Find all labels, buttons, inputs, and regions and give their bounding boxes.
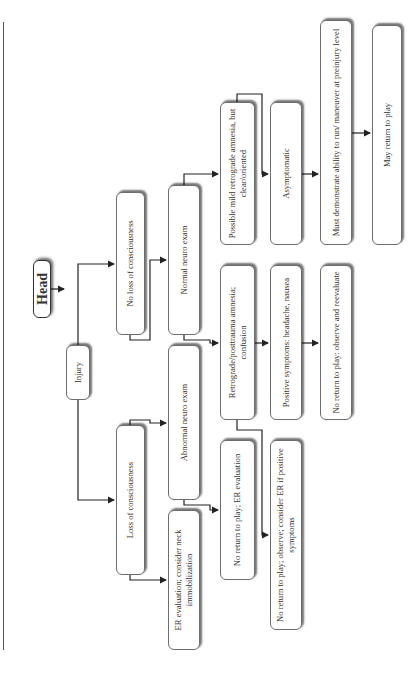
abnormal-neuro-exam-node: Abnormal neuro exam (168, 345, 200, 500)
no-return-reevaluate-label: No return to play: observe and reevaluat… (331, 271, 342, 413)
retrograde-amnesia-label: Retrograde/posttrauma amnesia; confusion (227, 270, 249, 415)
er-evaluation-node: ER evaluation; consider neck immobilizat… (168, 510, 200, 650)
flowchart-canvas: Head Injury No loss of consciousness Los… (0, 0, 412, 674)
abnormal-neuro-exam-label: Abnormal neuro exam (179, 384, 190, 461)
retrograde-amnesia-node: Retrograde/posttrauma amnesia; confusion (220, 265, 255, 420)
asymptomatic-node: Asymptomatic (270, 102, 302, 245)
er-evaluation-label: ER evaluation; consider neck immobilizat… (173, 515, 195, 645)
normal-neuro-exam-node: Normal neuro exam (168, 185, 200, 335)
no-loss-of-consciousness-label: No loss of consciousness (125, 220, 136, 306)
must-demonstrate-label: Must demonstrate ability to run/ maneuve… (331, 29, 342, 237)
head-title-label: Head (37, 273, 48, 305)
head-title-node: Head (33, 260, 51, 318)
must-demonstrate-node: Must demonstrate ability to run/ maneuve… (320, 20, 352, 245)
possible-mild-amnesia-label: Possible mild retrograde amnesia, but cl… (227, 107, 249, 240)
injury-node: Injury (66, 345, 90, 400)
no-loss-of-consciousness-node: No loss of consciousness (116, 192, 145, 335)
positive-symptoms-label: Positive symptoms: headache, nausea (281, 278, 292, 407)
may-return-to-play-node: May return to play (372, 25, 402, 245)
possible-mild-amnesia-node: Possible mild retrograde amnesia, but cl… (220, 102, 255, 245)
normal-neuro-exam-label: Normal neuro exam (179, 226, 190, 295)
may-return-to-play-label: May return to play (382, 103, 393, 167)
loss-of-consciousness-label: Loss of consciousness (125, 462, 136, 538)
no-return-er-evaluation-node: No return to play; ER evaluation (220, 440, 255, 580)
no-return-er-evaluation-label: No return to play; ER evaluation (232, 454, 243, 566)
injury-label: Injury (73, 362, 84, 383)
no-return-observe-er-node: No return to play; observe; consider ER … (270, 440, 302, 630)
positive-symptoms-node: Positive symptoms: headache, nausea (270, 265, 302, 420)
loss-of-consciousness-node: Loss of consciousness (116, 425, 145, 575)
asymptomatic-label: Asymptomatic (281, 148, 292, 199)
no-return-reevaluate-node: No return to play: observe and reevaluat… (320, 265, 352, 420)
no-return-observe-er-label: No return to play; observe; consider ER … (275, 445, 297, 625)
